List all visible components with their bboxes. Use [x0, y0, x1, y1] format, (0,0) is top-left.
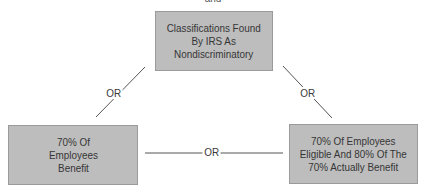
- edge-label-top-right: OR: [298, 87, 316, 99]
- node-text-line: Benefit: [49, 162, 98, 175]
- node-text-line: Nondiscriminatory: [167, 48, 261, 61]
- node-text-line: By IRS As: [167, 35, 261, 48]
- node-text-line: 70% Of: [49, 136, 98, 149]
- node-text-line: Employees: [49, 149, 98, 162]
- node-irs-nondiscriminatory: Classifications Found By IRS As Nondiscr…: [155, 11, 273, 71]
- node-text-line: Classifications Found: [167, 22, 261, 35]
- node-text-line: 70% Of Employees: [300, 135, 407, 148]
- edge-label-left-right: OR: [202, 146, 220, 158]
- node-70-eligible-80-benefit: 70% Of Employees Eligible And 80% Of The…: [289, 124, 418, 184]
- node-text-line: 70% Actually Benefit: [300, 161, 407, 174]
- edge-label-top-left: OR: [104, 87, 122, 99]
- node-text-line: Eligible And 80% Of The: [300, 148, 407, 161]
- node-70-percent-benefit: 70% Of Employees Benefit: [8, 125, 138, 185]
